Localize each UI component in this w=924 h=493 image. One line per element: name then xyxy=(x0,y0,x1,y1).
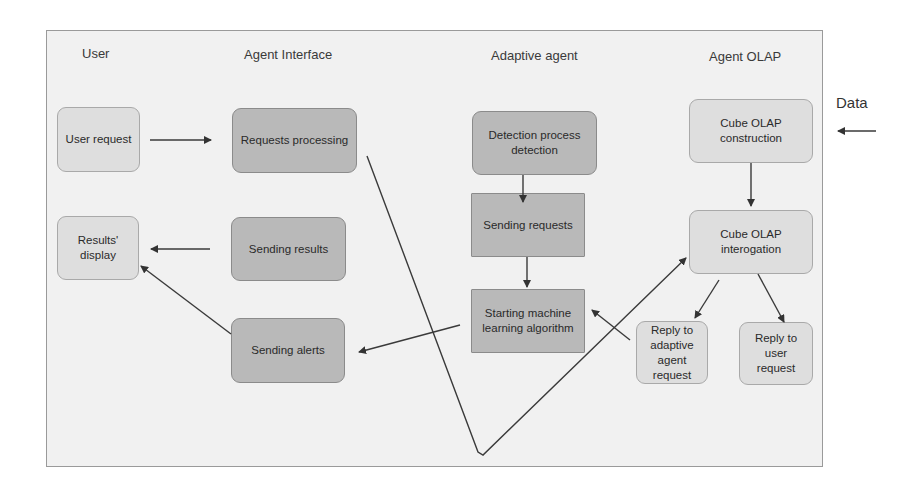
node-sending-results: Sending results xyxy=(231,217,346,281)
node-requests-processing: Requests processing xyxy=(232,108,357,173)
node-detection-process: Detection process detection xyxy=(472,111,597,175)
node-starting-ml: Starting machine learning algorithm xyxy=(471,289,585,353)
data-source-label: Data xyxy=(836,94,868,111)
node-user-request: User request xyxy=(57,107,140,172)
node-sending-alerts: Sending alerts xyxy=(231,318,345,383)
node-reply-adaptive: Reply to adaptive agent request xyxy=(636,321,708,384)
lane-title-agent-interface: Agent Interface xyxy=(244,47,332,62)
lane-title-agent-olap: Agent OLAP xyxy=(709,49,781,64)
node-sending-requests: Sending requests xyxy=(471,193,585,257)
node-results-display: Results' display xyxy=(57,216,139,280)
lane-title-adaptive-agent: Adaptive agent xyxy=(491,48,578,63)
lane-title-user: User xyxy=(82,46,109,61)
node-cube-interogation: Cube OLAP interogation xyxy=(689,210,813,274)
node-reply-user: Reply to user request xyxy=(739,322,813,385)
node-cube-construction: Cube OLAP construction xyxy=(689,99,813,163)
